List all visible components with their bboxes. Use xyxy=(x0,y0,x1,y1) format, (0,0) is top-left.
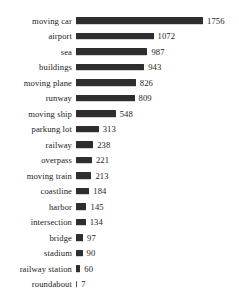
bar-container xyxy=(76,13,203,28)
bar xyxy=(76,95,135,101)
bar-container xyxy=(76,261,80,276)
bar-row: roundabout7 xyxy=(0,277,239,292)
value-label: 943 xyxy=(148,62,161,72)
value-label: 238 xyxy=(97,140,110,150)
bar-container xyxy=(76,60,144,75)
category-label: railway xyxy=(0,140,72,150)
bar xyxy=(76,33,154,39)
value-label: 90 xyxy=(87,248,96,258)
category-label: sea xyxy=(0,47,72,57)
bar-row: railway station60 xyxy=(0,261,239,276)
bar-container xyxy=(76,246,83,261)
bar xyxy=(76,188,89,194)
bar xyxy=(76,219,86,225)
category-label: intersection xyxy=(0,217,72,227)
bar-row: moving plane826 xyxy=(0,75,239,90)
bar-row: railway238 xyxy=(0,137,239,152)
bar-row: sea987 xyxy=(0,44,239,59)
category-label: moving car xyxy=(0,16,72,26)
value-label: 184 xyxy=(93,186,106,196)
bar xyxy=(76,265,80,271)
category-label: railway station xyxy=(0,264,72,274)
bar-container xyxy=(76,168,91,183)
bar xyxy=(76,79,136,85)
bar-row: harbor145 xyxy=(0,199,239,214)
bar-row: airport1072 xyxy=(0,29,239,44)
category-label: overpass xyxy=(0,155,72,165)
horizontal-bar-chart: moving car1756airport1072sea987buildings… xyxy=(0,0,239,301)
value-label: 809 xyxy=(139,93,152,103)
bar xyxy=(76,234,83,240)
value-label: 1072 xyxy=(158,31,176,41)
value-label: 221 xyxy=(96,155,109,165)
bar-container xyxy=(76,137,93,152)
category-label: harbor xyxy=(0,202,72,212)
category-label: runway xyxy=(0,93,72,103)
bar-container xyxy=(76,199,86,214)
category-label: bridge xyxy=(0,233,72,243)
bar-row: moving train213 xyxy=(0,168,239,183)
bar xyxy=(76,172,91,178)
bar-row: bridge97 xyxy=(0,230,239,245)
bar xyxy=(76,110,116,116)
bar-row: parkung lot313 xyxy=(0,122,239,137)
value-label: 548 xyxy=(120,109,133,119)
bar-row: stadium90 xyxy=(0,246,239,261)
bar-container xyxy=(76,215,86,230)
category-label: moving plane xyxy=(0,78,72,88)
bar-container xyxy=(76,106,116,121)
category-label: stadium xyxy=(0,248,72,258)
bar-row: moving car1756 xyxy=(0,13,239,28)
value-label: 313 xyxy=(103,124,116,134)
bar-container xyxy=(76,184,89,199)
bar xyxy=(76,17,203,23)
bar-container xyxy=(76,153,92,168)
value-label: 97 xyxy=(87,233,96,243)
bar xyxy=(76,126,99,132)
bar xyxy=(76,203,86,209)
bar-container xyxy=(76,91,135,106)
bar-row: coastline184 xyxy=(0,184,239,199)
category-label: parkung lot xyxy=(0,124,72,134)
bar xyxy=(76,250,83,256)
bar-container xyxy=(76,29,154,44)
bar-container xyxy=(76,75,136,90)
bar-container xyxy=(76,122,99,137)
bar-row: moving ship548 xyxy=(0,106,239,121)
category-label: moving ship xyxy=(0,109,72,119)
value-label: 987 xyxy=(151,47,164,57)
bar-row: intersection134 xyxy=(0,215,239,230)
bar-container xyxy=(76,230,83,245)
category-label: moving train xyxy=(0,171,72,181)
bar xyxy=(76,64,144,70)
category-label: airport xyxy=(0,31,72,41)
value-label: 60 xyxy=(84,264,93,274)
category-label: coastline xyxy=(0,186,72,196)
category-label: buildings xyxy=(0,62,72,72)
value-label: 7 xyxy=(81,279,85,289)
bar-container xyxy=(76,277,77,292)
bar-row: buildings943 xyxy=(0,60,239,75)
bar xyxy=(76,48,147,54)
bar-row: overpass221 xyxy=(0,153,239,168)
bar-row: runway809 xyxy=(0,91,239,106)
category-label: roundabout xyxy=(0,279,72,289)
bar-container xyxy=(76,44,147,59)
value-label: 134 xyxy=(90,217,103,227)
value-label: 1756 xyxy=(207,16,225,26)
value-label: 145 xyxy=(90,202,103,212)
value-label: 213 xyxy=(95,171,108,181)
bar xyxy=(76,141,93,147)
bar xyxy=(76,281,77,287)
bar xyxy=(76,157,92,163)
value-label: 826 xyxy=(140,78,153,88)
